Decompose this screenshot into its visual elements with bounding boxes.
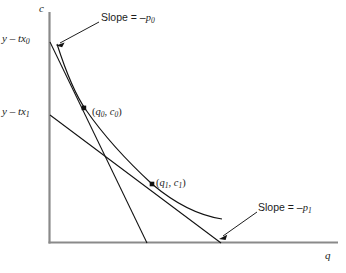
intercept-1-term: tx (18, 105, 26, 117)
x-axis-label: q (325, 250, 331, 261)
budget-line-slope-p1 (50, 115, 221, 243)
intercept-1-subscript: 1 (26, 110, 30, 119)
intercept-1-operator: – (7, 105, 18, 117)
slope-p1-arrow (219, 212, 257, 240)
point-label-q1-c1: (q1, c1) (156, 178, 186, 190)
point-label-q0-c0: (q0, c0) (92, 107, 122, 119)
intercept-0-operator: – (7, 32, 18, 44)
intercept-0-term: tx (18, 32, 26, 44)
y-axis-label: c (39, 3, 44, 14)
slope-0-text: Slope = – (101, 11, 146, 23)
budget-line-slope-p0 (50, 42, 147, 243)
point-1-close: ) (182, 177, 186, 188)
slope-annotation-p0: Slope = –p0 (101, 12, 155, 25)
point-0-close: ) (118, 106, 122, 117)
indifference-curve (57, 44, 222, 219)
slope-0-subscript: 0 (151, 16, 155, 25)
y-intercept-label-1: y – tx1 (2, 106, 30, 119)
marker-point-q1-c1 (150, 182, 155, 187)
intercept-0-subscript: 0 (26, 37, 30, 46)
slope-1-subscript: 1 (308, 206, 312, 215)
marker-point-q0-c0 (82, 106, 87, 111)
plot-canvas (0, 0, 346, 273)
y-intercept-label-0: y – tx0 (2, 33, 30, 46)
slope-p0-arrow (56, 22, 99, 47)
economics-figure: c q y – tx0 y – tx1 Slope = –p0 Slope = … (0, 0, 346, 273)
slope-annotation-p1: Slope = –p1 (258, 202, 312, 215)
slope-1-text: Slope = – (258, 201, 303, 213)
